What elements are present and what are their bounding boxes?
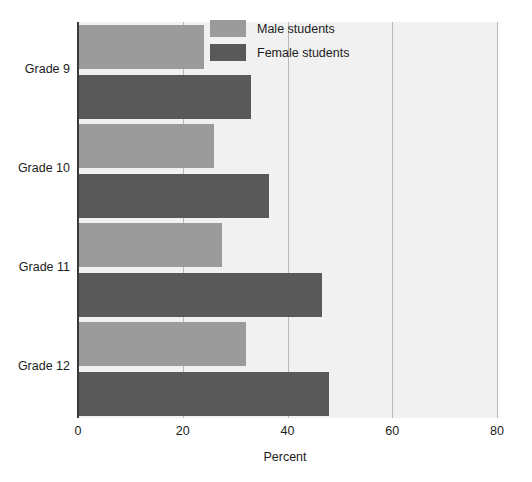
bar-grade-9-female — [78, 75, 251, 119]
bar-grade-11-female — [78, 273, 322, 317]
y-tick-label: Grade 9 — [0, 62, 70, 76]
x-axis-title: Percent — [0, 450, 532, 464]
legend-item-male: Male students — [210, 20, 349, 37]
x-tick-label: 60 — [385, 424, 399, 438]
x-tick-label: 0 — [75, 424, 82, 438]
bar-group — [78, 121, 497, 220]
gridline-80 — [497, 22, 498, 418]
legend-swatch-female — [210, 44, 246, 61]
legend-label-male: Male students — [257, 22, 335, 36]
bar-group — [78, 220, 497, 319]
y-tick-label: Grade 10 — [0, 161, 70, 175]
bar-grade-10-female — [78, 174, 269, 218]
bar-grade-10-male — [78, 124, 214, 168]
bar-grade-9-male — [78, 25, 204, 69]
y-tick-label: Grade 11 — [0, 260, 70, 274]
legend-item-female: Female students — [210, 44, 349, 61]
bar-grade-12-female — [78, 372, 329, 416]
y-axis-line — [77, 22, 79, 418]
plot-area — [78, 22, 497, 418]
legend-label-female: Female students — [257, 46, 349, 60]
bar-grade-12-male — [78, 322, 246, 366]
x-tick-label: 80 — [490, 424, 504, 438]
x-tick-label: 40 — [281, 424, 295, 438]
y-tick-label: Grade 12 — [0, 359, 70, 373]
chart-legend: Male students Female students — [210, 20, 349, 61]
bar-group — [78, 319, 497, 418]
bar-grade-11-male — [78, 223, 222, 267]
legend-swatch-male — [210, 20, 246, 37]
bar-chart: Male students Female students Percent Gr… — [0, 0, 532, 482]
x-tick-label: 20 — [176, 424, 190, 438]
x-axis-title-text: Percent — [263, 450, 306, 464]
